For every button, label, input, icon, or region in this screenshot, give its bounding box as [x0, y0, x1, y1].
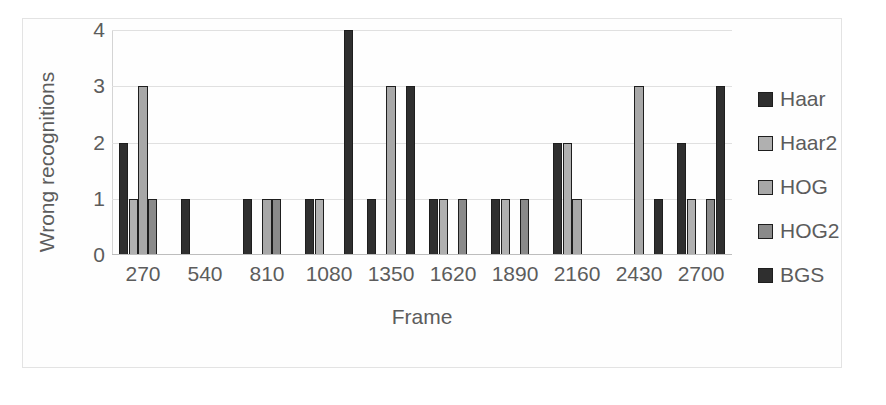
y-axis-tick-label: 4 — [75, 18, 105, 42]
bar-hog2-1890 — [520, 199, 529, 255]
bar-haar2-1620 — [439, 199, 448, 255]
bars-layer — [112, 30, 732, 255]
y-axis-title: Wrong recognitions — [35, 57, 59, 267]
x-axis-tick-label: 2430 — [616, 262, 663, 286]
bar-bgs-2430 — [654, 199, 663, 255]
bar-hog-810 — [262, 199, 271, 255]
bar-hog2-2700 — [706, 199, 715, 255]
bar-haar2-2160 — [563, 143, 572, 256]
bar-bgs-1350 — [406, 86, 415, 255]
bar-hog-2430 — [634, 86, 643, 255]
bar-haar2-1080 — [315, 199, 324, 255]
x-axis-line — [112, 254, 732, 255]
bar-bgs-1080 — [344, 30, 353, 255]
x-axis-tick-label: 1890 — [492, 262, 539, 286]
legend-swatch-icon — [758, 92, 773, 107]
bar-haar-1080 — [305, 199, 314, 255]
x-axis-title: Frame — [112, 305, 732, 329]
chart-legend: HaarHaar2HOGHOG2BGS — [758, 88, 878, 288]
bar-haar-810 — [243, 199, 252, 255]
x-axis-tick-labels: 2705408101080135016201890216024302700 — [112, 262, 732, 296]
x-axis-tick-label: 540 — [187, 262, 222, 286]
legend-label: Haar — [780, 87, 826, 111]
y-axis-tick-label: 1 — [75, 187, 105, 211]
x-axis-tick-label: 810 — [249, 262, 284, 286]
bar-haar-1890 — [491, 199, 500, 255]
bar-hog-2160 — [572, 199, 581, 255]
bar-haar2-2700 — [687, 199, 696, 255]
y-axis-tick-label: 2 — [75, 131, 105, 155]
x-axis-tick-label: 1350 — [368, 262, 415, 286]
bar-haar-2160 — [553, 143, 562, 256]
chart-container: Wrong recognitions 01234 270540810108013… — [0, 0, 886, 405]
bar-haar-2700 — [677, 143, 686, 256]
bar-haar2-1890 — [501, 199, 510, 255]
y-axis-tick-label: 0 — [75, 243, 105, 267]
x-axis-tick-label: 1620 — [430, 262, 477, 286]
bar-haar-270 — [119, 143, 128, 256]
bar-hog2-1620 — [458, 199, 467, 255]
x-axis-tick-label: 270 — [125, 262, 160, 286]
legend-entry-hog[interactable]: HOG — [758, 176, 828, 198]
legend-entry-haar[interactable]: Haar — [758, 88, 826, 110]
legend-swatch-icon — [758, 136, 773, 151]
bar-haar-1350 — [367, 199, 376, 255]
bar-hog-1350 — [386, 86, 395, 255]
legend-swatch-icon — [758, 224, 773, 239]
plot-area — [112, 30, 732, 255]
legend-swatch-icon — [758, 268, 773, 283]
bar-haar-540 — [181, 199, 190, 255]
legend-label: HOG2 — [780, 219, 840, 243]
bar-bgs-2700 — [716, 86, 725, 255]
legend-label: BGS — [780, 263, 824, 287]
bar-haar2-270 — [129, 199, 138, 255]
bar-hog2-270 — [148, 199, 157, 255]
bar-hog-270 — [138, 86, 147, 255]
x-axis-tick-label: 2700 — [678, 262, 725, 286]
y-axis-tick-label: 3 — [75, 74, 105, 98]
legend-entry-hog2[interactable]: HOG2 — [758, 220, 840, 242]
bar-hog2-810 — [272, 199, 281, 255]
legend-label: HOG — [780, 175, 828, 199]
bar-haar-1620 — [429, 199, 438, 255]
legend-entry-bgs[interactable]: BGS — [758, 264, 824, 286]
legend-label: Haar2 — [780, 131, 837, 155]
legend-entry-haar2[interactable]: Haar2 — [758, 132, 837, 154]
x-axis-tick-label: 2160 — [554, 262, 601, 286]
y-axis-tick-labels: 01234 — [75, 30, 105, 255]
x-axis-tick-label: 1080 — [306, 262, 353, 286]
legend-swatch-icon — [758, 180, 773, 195]
